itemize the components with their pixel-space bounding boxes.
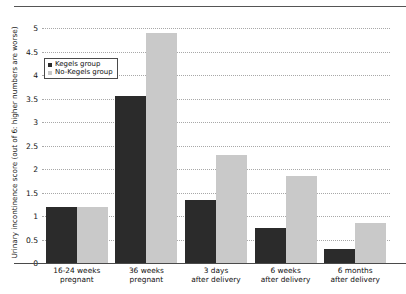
y-axis-tick-label: 2 xyxy=(33,166,38,174)
legend-label-no-kegels: No-Kegels group xyxy=(55,69,113,76)
x-axis-category-label: 6 weeksafter delivery xyxy=(251,266,321,285)
bar-group xyxy=(251,28,321,263)
x-axis-category-labels: 16-24 weekspregnant36 weekspregnant3 day… xyxy=(42,266,390,285)
legend-label-kegels: Kegels group xyxy=(55,61,100,68)
category-label-line: after delivery xyxy=(320,275,390,284)
top-rule-divider xyxy=(14,6,406,7)
y-axis-tick-label: 2.5 xyxy=(26,143,38,151)
legend-item-kegels: Kegels group xyxy=(48,61,113,68)
y-axis-tick-label: 1 xyxy=(33,213,38,221)
y-axis-title: Urinary incontinence score (out of 6: hi… xyxy=(10,13,19,273)
bar-no-kegels[interactable] xyxy=(77,207,108,263)
bar-group xyxy=(320,28,390,263)
bar-no-kegels[interactable] xyxy=(355,223,386,263)
bar-chart: Urinary incontinence score (out of 6: hi… xyxy=(0,0,406,294)
bar-kegels[interactable] xyxy=(46,207,77,263)
category-label-line: after delivery xyxy=(251,275,321,284)
bar-kegels[interactable] xyxy=(115,96,146,263)
bar-kegels[interactable] xyxy=(324,249,355,263)
category-label-line: 6 months xyxy=(320,266,390,275)
y-axis-tick-label: 0.5 xyxy=(26,237,38,245)
legend-swatch-icon-kegels xyxy=(48,63,52,67)
category-label-line: 3 days xyxy=(181,266,251,275)
x-axis-category-label: 6 monthsafter delivery xyxy=(320,266,390,285)
category-label-line: 16-24 weeks xyxy=(42,266,112,275)
bar-kegels[interactable] xyxy=(185,200,216,263)
bar-no-kegels[interactable] xyxy=(286,176,317,263)
y-axis-tick-label: 1.5 xyxy=(26,190,38,198)
y-axis-tick-label: 4 xyxy=(33,72,38,80)
y-axis-tick-label: 3 xyxy=(33,119,38,127)
bar-group xyxy=(112,28,182,263)
chart-legend: Kegels group No-Kegels group xyxy=(44,58,118,79)
x-axis-line xyxy=(14,263,406,264)
bar-no-kegels[interactable] xyxy=(146,33,177,263)
x-axis-category-label: 16-24 weekspregnant xyxy=(42,266,112,285)
legend-item-no-kegels: No-Kegels group xyxy=(48,69,113,76)
bar-kegels[interactable] xyxy=(255,228,286,263)
bar-group xyxy=(181,28,251,263)
category-label-line: pregnant xyxy=(112,275,182,284)
y-axis-tick-label: 0 xyxy=(33,260,38,268)
chart-title-clipped xyxy=(0,0,406,5)
category-label-line: 6 weeks xyxy=(251,266,321,275)
bar-no-kegels[interactable] xyxy=(216,155,247,263)
legend-swatch-icon-no-kegels xyxy=(48,71,52,75)
y-axis-tick-label: 5 xyxy=(33,25,38,33)
y-axis-tick-label: 4.5 xyxy=(26,49,38,57)
x-axis-category-label: 3 daysafter delivery xyxy=(181,266,251,285)
category-label-line: 36 weeks xyxy=(112,266,182,275)
y-axis-tick-label: 3.5 xyxy=(26,96,38,104)
category-label-line: after delivery xyxy=(181,275,251,284)
category-label-line: pregnant xyxy=(42,275,112,284)
x-axis-category-label: 36 weekspregnant xyxy=(112,266,182,285)
